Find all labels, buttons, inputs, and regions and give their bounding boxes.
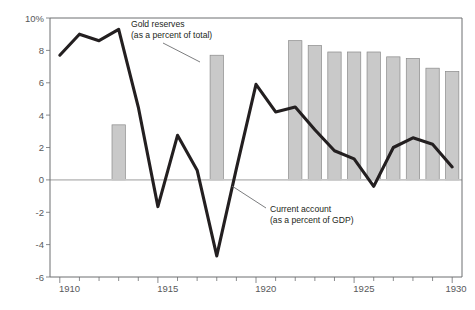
bar <box>210 55 223 180</box>
current-account-annotation-line1: Current account <box>270 204 332 214</box>
y-axis-tick-labels: 10% 8 6 4 2 0 -2 -4 -6 <box>25 13 45 283</box>
bar <box>112 125 125 180</box>
bar <box>426 68 439 180</box>
x-axis-tick-labels: 1910 1915 1920 1925 1930 <box>59 283 467 294</box>
x-tick-label: 1920 <box>255 283 276 294</box>
bar <box>328 52 341 180</box>
y-tick-label: 6 <box>39 77 44 88</box>
y-tick-label: -6 <box>36 272 44 283</box>
y-tick-label: 2 <box>39 142 44 153</box>
x-tick-label: 1915 <box>157 283 178 294</box>
y-tick-label: 8 <box>39 45 44 56</box>
y-tick-label: 4 <box>39 110 44 121</box>
bar <box>387 57 400 180</box>
y-axis-ticks <box>46 18 50 277</box>
current-account-annotation-line2: (as a percent of GDP) <box>270 215 354 225</box>
x-tick-label: 1925 <box>353 283 374 294</box>
x-tick-label: 1930 <box>445 283 466 294</box>
y-tick-label: -4 <box>36 239 44 250</box>
chart-figure: 10% 8 6 4 2 0 -2 -4 -6 <box>0 0 475 310</box>
y-tick-label: 10% <box>25 13 45 24</box>
y-tick-label: -2 <box>36 207 44 218</box>
gold-reserves-annotation-line2: (as a percent of total) <box>131 30 212 40</box>
chart-svg: 10% 8 6 4 2 0 -2 -4 -6 <box>0 0 475 310</box>
bar <box>406 58 419 179</box>
x-tick-label: 1910 <box>59 283 80 294</box>
y-tick-label: 0 <box>39 174 44 185</box>
gold-reserves-annotation-line1: Gold reserves <box>131 19 185 29</box>
bar <box>308 46 321 180</box>
bar <box>367 52 380 180</box>
